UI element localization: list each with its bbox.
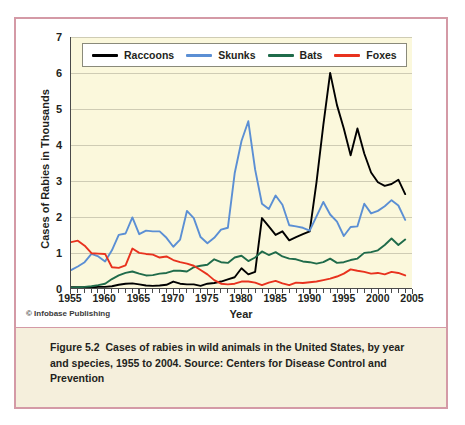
x-tick-label: 2000 bbox=[366, 292, 389, 304]
legend-label: Bats bbox=[300, 49, 323, 61]
series-line-skunks bbox=[71, 121, 405, 270]
series-line-raccoons bbox=[71, 73, 405, 287]
figure-frame: Cases of Rabies in Thousands 01234567 19… bbox=[14, 17, 448, 409]
legend-swatch-raccoons bbox=[92, 54, 118, 57]
legend-label: Foxes bbox=[366, 49, 396, 61]
y-tick-label: 1 bbox=[56, 247, 62, 259]
legend-swatch-foxes bbox=[334, 54, 360, 57]
caption-label: Figure 5.2 bbox=[50, 341, 100, 353]
y-tick-label: 5 bbox=[56, 103, 62, 115]
x-tick-label: 1970 bbox=[161, 292, 184, 304]
y-tick-label: 2 bbox=[56, 211, 62, 223]
legend-swatch-bats bbox=[268, 54, 294, 57]
x-tick-label: 1960 bbox=[93, 292, 116, 304]
legend-label: Raccoons bbox=[124, 49, 174, 61]
x-axis-title: Year bbox=[70, 308, 412, 320]
x-tick-label: 1955 bbox=[58, 292, 81, 304]
series-line-foxes bbox=[71, 241, 405, 285]
y-axis-tick-labels: 01234567 bbox=[36, 37, 66, 289]
legend-item-skunks: Skunks bbox=[186, 49, 255, 61]
chart-panel: Cases of Rabies in Thousands 01234567 19… bbox=[16, 19, 446, 327]
legend-label: Skunks bbox=[218, 49, 255, 61]
x-axis-tick-labels: 1955196019651970197519801985199019952000… bbox=[70, 292, 412, 308]
legend-item-foxes: Foxes bbox=[334, 49, 396, 61]
x-tick-label: 1965 bbox=[127, 292, 150, 304]
chart-legend: RaccoonsSkunksBatsFoxes bbox=[82, 43, 407, 67]
legend-item-bats: Bats bbox=[268, 49, 323, 61]
legend-item-raccoons: Raccoons bbox=[92, 49, 174, 61]
series-lines bbox=[71, 37, 412, 288]
x-tick-label: 1990 bbox=[298, 292, 321, 304]
y-tick-label: 3 bbox=[56, 175, 62, 187]
figure-caption: Figure 5.2 Cases of rabies in wild anima… bbox=[50, 340, 420, 387]
x-tick-label: 1995 bbox=[332, 292, 355, 304]
caption-panel: Figure 5.2 Cases of rabies in wild anima… bbox=[16, 327, 446, 407]
x-tick-label: 1975 bbox=[195, 292, 218, 304]
series-line-bats bbox=[71, 239, 405, 288]
plot-area bbox=[70, 37, 412, 289]
y-tick-label: 4 bbox=[56, 139, 62, 151]
publisher-credit: © Infobase Publishing bbox=[26, 309, 110, 318]
y-tick-label: 7 bbox=[56, 31, 62, 43]
x-tick-label: 1980 bbox=[229, 292, 252, 304]
y-tick-label: 6 bbox=[56, 67, 62, 79]
x-tick-label: 2005 bbox=[400, 292, 423, 304]
legend-swatch-skunks bbox=[186, 54, 212, 57]
x-tick-label: 1985 bbox=[264, 292, 287, 304]
